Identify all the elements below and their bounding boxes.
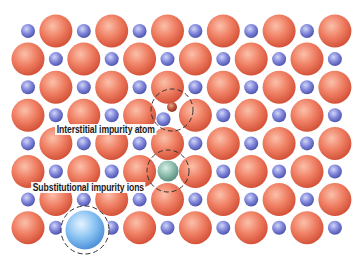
small-ion (300, 136, 314, 150)
large-ion (235, 99, 268, 132)
large-ion (207, 183, 240, 216)
small-ion (21, 136, 35, 150)
small-ion (133, 193, 147, 207)
large-ion (151, 183, 184, 216)
large-ion (235, 43, 268, 76)
small-ion (216, 108, 230, 122)
small-ion (105, 165, 119, 179)
large-ion (263, 127, 296, 160)
large-ion (263, 15, 296, 48)
small-ion (244, 193, 258, 207)
small-ion (133, 24, 147, 38)
small-ion (216, 221, 230, 235)
small-ion (244, 136, 258, 150)
small-ion (244, 80, 258, 94)
large-ion (12, 211, 45, 244)
small-ion (328, 221, 342, 235)
small-ion (161, 52, 175, 66)
small-ion (188, 24, 202, 38)
large-ion (318, 15, 351, 48)
small-ion (105, 52, 119, 66)
large-ion (95, 15, 128, 48)
small-ion (272, 52, 286, 66)
small-ion (300, 80, 314, 94)
large-ion (179, 211, 212, 244)
large-ion (291, 211, 324, 244)
large-ion (291, 43, 324, 76)
small-ion (77, 80, 91, 94)
small-ion (188, 136, 202, 150)
large-ion (291, 99, 324, 132)
small-ion (188, 193, 202, 207)
large-ion (151, 15, 184, 48)
large-ion (291, 155, 324, 188)
large-ion (263, 71, 296, 104)
small-ion (21, 80, 35, 94)
small-ion (49, 52, 63, 66)
large-ion (207, 15, 240, 48)
interstitial-impurity-label: Interstitial impurity atom (55, 124, 157, 135)
small-ion (161, 221, 175, 235)
small-ion (272, 108, 286, 122)
large-ion (318, 183, 351, 216)
large-ion (39, 15, 72, 48)
small-ion (157, 112, 171, 126)
large-ion (12, 43, 45, 76)
small-ion (21, 24, 35, 38)
large-ion (95, 71, 128, 104)
small-ion (244, 24, 258, 38)
large-ion (39, 71, 72, 104)
interstitial-impurity (167, 102, 177, 112)
large-ion (318, 127, 351, 160)
small-ion (49, 108, 63, 122)
small-ion (328, 108, 342, 122)
large-ion (235, 211, 268, 244)
small-ion (272, 221, 286, 235)
large-ion (123, 211, 156, 244)
substitutional-impurity-label: Substitutional impurity ions (31, 182, 146, 193)
small-ion (300, 24, 314, 38)
large-ion (12, 99, 45, 132)
large-ion (263, 183, 296, 216)
small-ion (133, 136, 147, 150)
small-ion (272, 165, 286, 179)
small-ion (21, 193, 35, 207)
substitutional-small-impurity (158, 161, 179, 182)
large-ion (123, 43, 156, 76)
substitutional-large-impurity (66, 211, 105, 250)
small-ion (77, 136, 91, 150)
small-ion (105, 108, 119, 122)
large-ion (151, 71, 184, 104)
small-ion (216, 52, 230, 66)
small-ion (300, 193, 314, 207)
large-ion (67, 43, 100, 76)
small-ion (188, 80, 202, 94)
large-ion (207, 71, 240, 104)
small-ion (49, 165, 63, 179)
small-ion (133, 80, 147, 94)
large-ion (179, 43, 212, 76)
small-ion (216, 165, 230, 179)
small-ion (328, 165, 342, 179)
large-ion (207, 127, 240, 160)
small-ion (77, 193, 91, 207)
small-ion (328, 52, 342, 66)
large-ion (318, 71, 351, 104)
large-ion (235, 155, 268, 188)
large-ion (179, 155, 212, 188)
small-ion (77, 24, 91, 38)
